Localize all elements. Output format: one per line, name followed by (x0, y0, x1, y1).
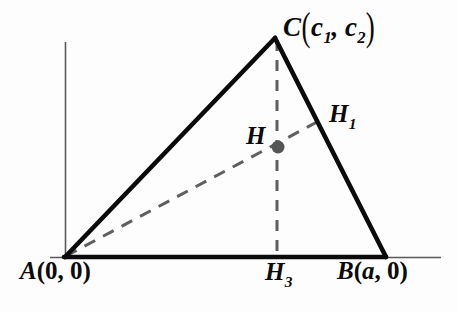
h1-subscript: 1 (349, 115, 357, 132)
vertex-b-letter: B (337, 257, 354, 284)
vertex-c-letter: C (283, 12, 301, 42)
orthocenter-point-dot (272, 141, 285, 154)
h3-letter: H (265, 258, 284, 285)
h3-subscript: 3 (285, 273, 293, 290)
vertex-label-b: B(a, 0) (337, 258, 408, 283)
vertex-b-a-param: a (362, 257, 375, 284)
c-comma: , (331, 12, 338, 42)
c2-letter: c (345, 12, 357, 42)
c1-subscript: 1 (323, 28, 331, 47)
point-label-h1: H1 (329, 101, 356, 126)
point-label-h3: H3 (265, 259, 292, 284)
h-letter: H (246, 122, 265, 149)
vertex-label-a: A(0, 0) (20, 258, 91, 283)
vertex-label-c: C(c1, c2) (283, 14, 375, 41)
triangle-side-ac (65, 38, 275, 257)
vertex-a-letter: A (20, 257, 37, 284)
c1-letter: c (311, 12, 323, 42)
point-label-h: H (246, 123, 265, 148)
geometry-figure-canvas: C(c1, c2) A(0, 0) B(a, 0) H3 H1 H (0, 0, 457, 313)
c-open-paren: ( (302, 8, 311, 47)
c-close-paren: ) (366, 8, 375, 47)
c2-subscript: 2 (357, 28, 365, 47)
h1-letter: H (329, 100, 348, 127)
triangle-side-cb (275, 38, 386, 257)
vertex-a-coords: (0, 0) (37, 257, 91, 284)
vertex-b-coords-rest: , 0) (375, 257, 408, 284)
vertex-b-open-paren: ( (354, 257, 362, 284)
